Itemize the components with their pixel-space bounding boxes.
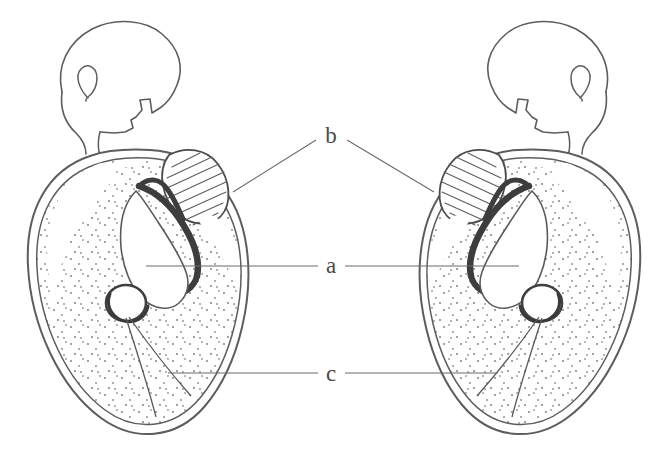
label-b: b <box>325 123 337 148</box>
label-a: a <box>326 253 336 278</box>
diagram-canvas: b a c <box>0 0 668 451</box>
anatomical-diagram: b a c <box>0 0 668 451</box>
label-c: c <box>326 361 336 386</box>
